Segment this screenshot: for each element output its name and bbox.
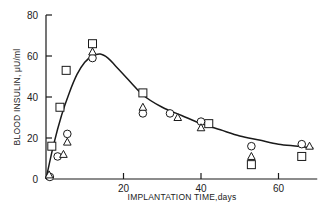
square-marker <box>48 142 56 150</box>
square-marker <box>56 103 64 111</box>
circle-marker <box>166 110 174 118</box>
triangle-marker <box>64 138 72 145</box>
y-axis-title: BLOOD INSULIN, μU/ml <box>12 49 22 146</box>
y-tick-label: 80 <box>27 10 39 21</box>
insulin-chart: 020406080 204060 IMPLANTATION TIME,days … <box>0 0 334 211</box>
triangle-marker <box>89 48 97 55</box>
x-tick-label: 60 <box>273 183 285 194</box>
square-marker <box>247 161 255 169</box>
x-axis: 204060 <box>46 173 317 194</box>
triangle-marker <box>139 103 147 110</box>
circle-marker <box>298 140 306 148</box>
square-marker <box>139 89 147 97</box>
square-marker <box>298 152 306 160</box>
square-marker <box>62 66 70 74</box>
circle-marker <box>64 130 72 138</box>
square-marker <box>205 120 213 128</box>
y-axis: 020406080 <box>27 10 52 185</box>
y-tick-label: 40 <box>27 92 39 103</box>
x-axis-title: IMPLANTATION TIME,days <box>128 192 237 202</box>
y-tick-label: 20 <box>27 133 39 144</box>
square-marker <box>89 40 97 48</box>
y-tick-label: 0 <box>32 174 38 185</box>
triangle-marker <box>248 152 256 159</box>
y-tick-label: 60 <box>27 51 39 62</box>
circle-marker <box>248 142 256 150</box>
triangle-marker <box>306 142 314 149</box>
